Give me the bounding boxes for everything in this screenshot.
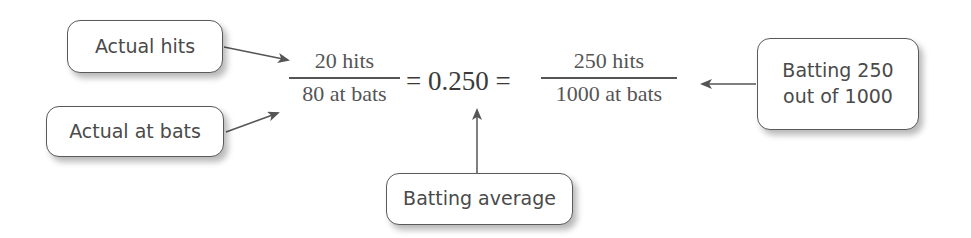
callout-batting-250-line2: out of 1000 [783, 84, 893, 110]
callout-batting-average-label: Batting average [403, 186, 556, 212]
arrow-actual-hits [224, 47, 288, 60]
callout-actual-hits-label: Actual hits [95, 34, 195, 60]
equation-middle: = 0.250 = [406, 66, 511, 97]
arrow-actual-at-bats [226, 113, 278, 132]
fraction-actual-numerator: 20 hits [289, 48, 400, 77]
callout-actual-hits: Actual hits [67, 20, 223, 73]
callout-batting-250: Batting 250 out of 1000 [757, 38, 919, 130]
callout-actual-at-bats-label: Actual at bats [69, 119, 201, 145]
fraction-scaled-numerator: 250 hits [541, 48, 677, 77]
fraction-actual-denominator: 80 at bats [289, 79, 400, 107]
fraction-scaled: 250 hits 1000 at bats [541, 48, 677, 107]
callout-actual-at-bats: Actual at bats [46, 106, 224, 157]
callout-batting-average: Batting average [386, 173, 573, 225]
fraction-scaled-denominator: 1000 at bats [541, 79, 677, 107]
callout-batting-250-line1: Batting 250 [782, 58, 893, 84]
fraction-actual: 20 hits 80 at bats [289, 48, 400, 107]
